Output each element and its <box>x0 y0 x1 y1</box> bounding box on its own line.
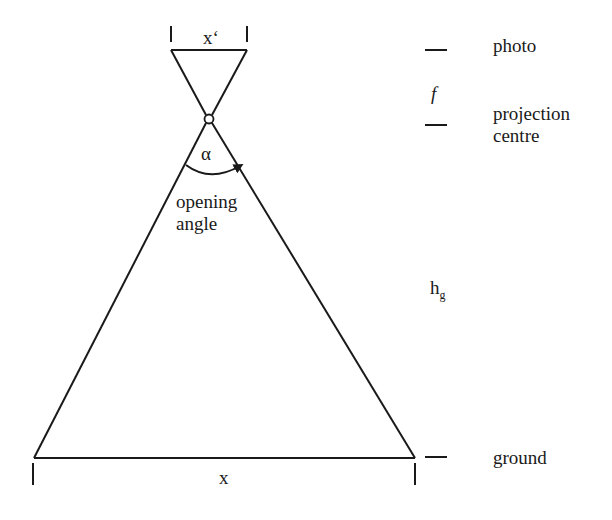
flying-height-label: hg <box>430 277 446 302</box>
photo-triangle <box>171 50 247 115</box>
photo-legend-label: photo <box>493 35 536 56</box>
alpha-label: α <box>201 143 211 164</box>
opening-angle-label-line2: angle <box>176 213 217 234</box>
projection-diagram: x‘ α opening angle x f photo projection … <box>0 0 612 520</box>
flying-height-subscript: g <box>440 288 446 302</box>
flying-height-symbol: h <box>430 277 440 298</box>
projection-centre-marker <box>205 115 214 124</box>
focal-length-label: f <box>431 83 439 104</box>
projection-legend-label-line1: projection <box>493 103 571 124</box>
ground-legend-label: ground <box>493 447 547 468</box>
projection-legend-label-line2: centre <box>493 125 539 146</box>
photo-width-label: x‘ <box>203 27 219 48</box>
ground-width-label: x <box>219 467 229 488</box>
opening-angle-label-line1: opening <box>176 191 238 212</box>
opening-angle-arc <box>186 165 240 174</box>
